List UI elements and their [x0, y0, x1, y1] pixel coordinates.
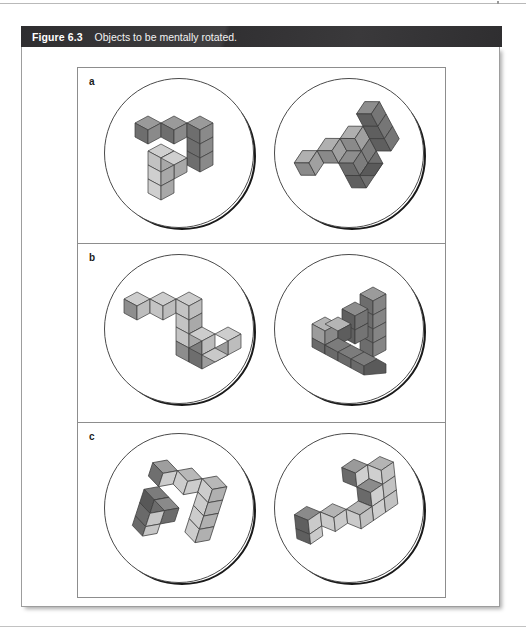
- figure-caption-bar: Figure 6.3 Objects to be mentally rotate…: [21, 26, 502, 47]
- panel-b-circles: [78, 244, 445, 422]
- figure-caption-text: Objects to be mentally rotated.: [95, 31, 237, 43]
- object-a-rotated: [272, 76, 432, 236]
- page-rule-bottom: [0, 626, 526, 627]
- page-corner-tick: [497, 1, 499, 4]
- block-figure-b-left: [104, 254, 254, 404]
- object-c-original: [102, 431, 262, 591]
- panel-c-circles: [78, 423, 445, 597]
- figure-number-label: Figure 6.3: [32, 31, 83, 43]
- panel-row-a: a: [78, 68, 445, 244]
- block-figure-a-right: [274, 78, 424, 228]
- object-c-rotated: [272, 431, 432, 591]
- figure-frame: a: [21, 47, 500, 607]
- object-b-rotated: [272, 252, 432, 412]
- panel-box: a: [77, 67, 446, 598]
- object-a-original: [102, 76, 262, 236]
- panel-row-b: b: [78, 244, 445, 423]
- page-rule-top: [0, 3, 526, 4]
- panel-a-circles: [78, 68, 445, 243]
- block-figure-c-left: [104, 433, 254, 583]
- block-figure-c-right: [274, 433, 424, 583]
- panel-row-c: c: [78, 423, 445, 597]
- block-figure-a-left: [104, 78, 254, 228]
- object-b-original: [102, 252, 262, 412]
- figure-page: Figure 6.3 Objects to be mentally rotate…: [0, 0, 526, 636]
- block-figure-b-right: [274, 254, 424, 404]
